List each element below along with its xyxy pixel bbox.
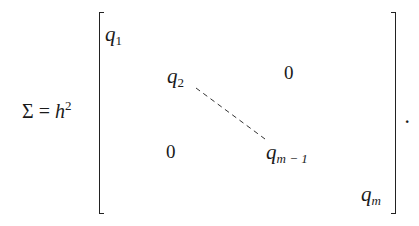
- diagonal-dots-line: [0, 0, 419, 226]
- entry-qm-minus-1: qm − 1: [266, 140, 308, 167]
- period: .: [404, 104, 410, 128]
- entry-qm: qm: [361, 182, 381, 209]
